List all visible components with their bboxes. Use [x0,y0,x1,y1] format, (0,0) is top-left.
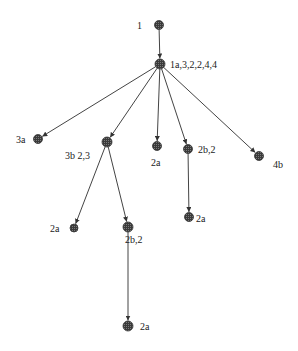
tree-node-n10 [185,213,194,222]
node-label-n10: 2a [196,213,206,224]
tree-node-n4 [102,137,112,147]
edge-n2-n7 [164,67,256,152]
edges-layer [42,29,255,320]
node-label-n7: 4b [273,159,283,170]
node-label-n1: 1 [137,20,142,31]
edge-n2-n4 [110,68,157,137]
edge-n1-n2 [159,29,160,58]
node-label-n5: 2a [151,157,161,168]
node-label-n2: 1a,3,2,2,4,4 [170,59,217,70]
edge-n4-n9 [108,147,126,222]
edge-n2-n5 [157,69,160,141]
tree-node-n9 [123,222,133,232]
node-label-n8: 2a [50,223,60,234]
node-label-n4: 3b 2,3 [65,150,90,161]
tree-diagram: 11a,3,2,2,4,43a3b 2,32a2b,24b2a2b,22a2a [0,0,298,351]
tree-node-n6 [184,145,193,154]
edge-n2-n3 [42,67,155,137]
tree-node-n8 [70,224,78,232]
tree-node-n11 [123,321,133,331]
node-label-n6: 2b,2 [198,144,216,155]
tree-node-n2 [155,59,165,69]
tree-node-n5 [153,142,162,151]
tree-node-n3 [34,135,43,144]
node-label-n11: 2a [140,321,150,332]
nodes-layer [34,21,264,332]
edge-n6-n10 [188,153,189,212]
node-label-n9: 2b,2 [125,234,143,245]
labels-layer: 11a,3,2,2,4,43a3b 2,32a2b,24b2a2b,22a2a [16,20,283,332]
tree-node-n7 [255,152,264,161]
edge-n2-n6 [162,69,187,145]
node-label-n3: 3a [16,134,26,145]
tree-node-n1 [155,21,164,30]
